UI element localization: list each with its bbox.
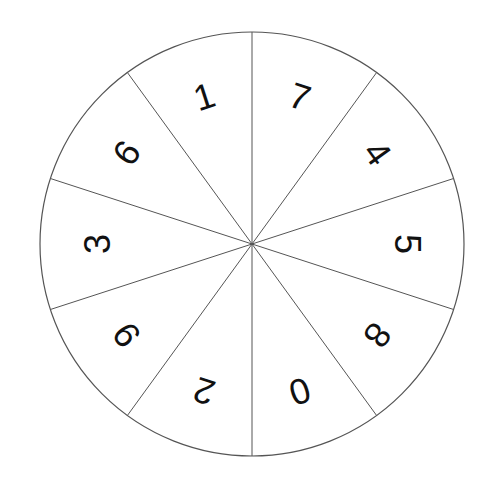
sector-label: 7 bbox=[284, 74, 316, 119]
sector-label: 0 bbox=[284, 369, 316, 414]
sector-label: 4 bbox=[355, 133, 400, 173]
sector-label: 3 bbox=[77, 234, 118, 254]
sector-label: 8 bbox=[355, 315, 400, 355]
sector-label: 2 bbox=[188, 369, 220, 414]
sector-label: 5 bbox=[387, 234, 428, 254]
sector-label: 9 bbox=[104, 315, 149, 355]
number-wheel: 7458029361 bbox=[0, 0, 482, 485]
sector-label: 6 bbox=[104, 133, 149, 173]
sector-label: 1 bbox=[188, 74, 220, 119]
